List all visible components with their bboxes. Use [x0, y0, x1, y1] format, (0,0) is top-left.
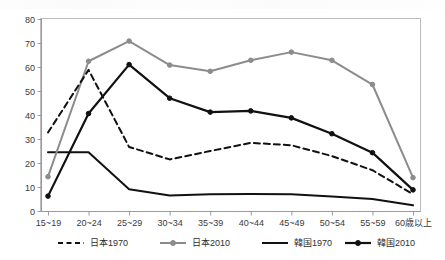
legend-item-韓国2010[interactable]: 韓国2010	[345, 238, 415, 248]
series-日本2010	[46, 39, 416, 180]
data-point	[167, 63, 172, 68]
data-point	[370, 150, 375, 155]
x-tick-label: 40~44	[239, 218, 264, 228]
y-tick-label: 70	[25, 39, 35, 49]
series-layer	[46, 39, 416, 205]
y-tick-label: 80	[25, 15, 35, 25]
y-tick-label: 30	[25, 135, 35, 145]
scan-artifact-band	[0, 0, 445, 9]
legend-label: 日本1970	[90, 237, 128, 248]
legend-item-韓国1970[interactable]: 韓国1970	[262, 238, 332, 248]
data-point	[46, 194, 51, 199]
legend-item-日本1970[interactable]: 日本1970	[58, 237, 128, 248]
y-tick-label: 60	[25, 63, 35, 73]
y-tick-label: 40	[25, 111, 35, 121]
series-line	[48, 41, 413, 178]
data-point	[167, 96, 172, 101]
x-tick-label: 45~49	[279, 218, 304, 228]
x-tick-label: 25~29	[117, 218, 142, 228]
data-point	[289, 116, 294, 121]
data-point	[248, 109, 253, 114]
series-line	[48, 70, 413, 194]
data-point	[248, 58, 253, 63]
legend-label: 韓国2010	[377, 238, 415, 248]
legend-label: 日本2010	[192, 237, 230, 248]
data-point	[46, 174, 51, 179]
legend-item-日本2010[interactable]: 日本2010	[160, 237, 230, 248]
data-point	[86, 59, 91, 64]
data-point	[208, 69, 213, 74]
x-tick-label: 20~24	[76, 218, 101, 228]
x-tick-label: 60歳以上	[395, 217, 432, 228]
y-tick-label: 0	[30, 207, 35, 217]
series-line	[48, 65, 413, 197]
legend: 日本1970日本2010韓国1970韓国2010	[58, 237, 415, 248]
data-point	[411, 175, 416, 180]
plot-area-frame	[41, 19, 421, 212]
data-point	[86, 111, 91, 116]
data-point	[330, 131, 335, 136]
series-韓国2010	[46, 62, 416, 198]
data-point	[127, 62, 132, 67]
series-line	[48, 152, 413, 205]
data-point	[330, 58, 335, 63]
series-日本1970	[48, 70, 413, 194]
series-韓国1970	[48, 152, 413, 205]
y-tick-label: 10	[25, 183, 35, 193]
y-axis: 01020304050607080	[25, 15, 42, 217]
x-tick-label: 30~34	[158, 218, 183, 228]
legend-swatch-marker	[171, 241, 176, 246]
data-point	[370, 82, 375, 87]
x-tick-label: 50~54	[320, 218, 345, 228]
x-axis: 15~1920~2425~2930~3435~3940~4445~4950~54…	[36, 212, 432, 229]
y-tick-label: 50	[25, 87, 35, 97]
data-point	[411, 188, 416, 193]
x-tick-label: 15~19	[36, 218, 61, 228]
chart-canvas: 01020304050607080 15~1920~2425~2930~3435…	[0, 0, 445, 260]
y-tick-label: 20	[25, 159, 35, 169]
data-point	[208, 110, 213, 115]
x-tick-label: 55~59	[360, 218, 385, 228]
data-point	[289, 50, 294, 55]
line-chart: 01020304050607080 15~1920~2425~2930~3435…	[0, 0, 445, 260]
legend-label: 韓国1970	[294, 238, 332, 248]
legend-swatch-marker	[356, 241, 361, 246]
x-tick-label: 35~39	[198, 218, 223, 228]
data-point	[127, 39, 132, 44]
